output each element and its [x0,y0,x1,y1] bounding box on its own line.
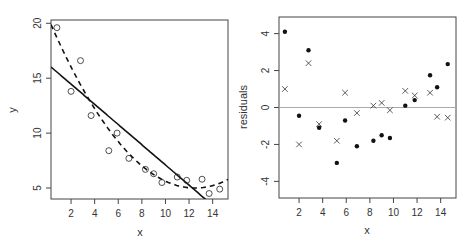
data-point [78,58,84,64]
x-tick-label: 12 [411,207,423,218]
figure: 2468101214 5101520 x y 2468101214 -4-202… [0,0,473,244]
quadratic-residual-cross [334,138,340,144]
left-y-axis-label: y [6,107,18,113]
x-tick-label: 12 [183,208,195,219]
left-observations [54,25,223,197]
x-tick-label: 14 [435,207,447,218]
x-tick-label: 8 [139,208,145,219]
y-tick-label: 20 [32,17,43,29]
linear-residual-dot [413,98,417,102]
right-panel-residual-plot: 2468101214 -4-2024 x residuals [237,17,456,236]
quadratic-residual-cross [342,90,348,96]
linear-residual-dot [306,48,310,52]
linear-residual-dot [388,136,392,140]
linear-residual-dot [317,126,321,130]
y-tick-label: -4 [260,177,271,186]
quadratic-residual-cross [354,110,360,116]
left-x-axis-label: x [137,226,143,238]
y-tick-label: -2 [260,140,271,149]
right-residual-points [282,30,450,166]
y-tick-label: 4 [260,30,271,36]
data-point [54,25,60,31]
right-x-axis: 2468101214 [296,198,446,218]
data-point [126,155,132,161]
quadratic-residual-cross [402,88,408,94]
y-tick-label: 15 [32,72,43,84]
linear-residual-dot [435,85,439,89]
x-tick-label: 10 [388,207,400,218]
quadratic-residual-cross [445,115,451,121]
y-tick-label: 10 [32,127,43,139]
quadratic-residual-cross [296,142,302,148]
x-tick-label: 6 [343,207,349,218]
linear-residual-dot [335,161,339,165]
x-tick-label: 8 [367,207,373,218]
x-tick-label: 4 [92,208,98,219]
left-plot-frame [51,20,228,199]
left-panel-fit-plot: 2468101214 5101520 x y [6,17,228,238]
data-point [206,191,212,197]
linear-fit-line [51,67,228,219]
x-tick-label: 14 [207,208,219,219]
quadratic-residual-cross [387,107,393,113]
data-point [114,130,120,136]
linear-residual-dot [297,114,301,118]
linear-residual-dot [446,62,450,66]
linear-residual-dot [371,139,375,143]
y-tick-label: 0 [260,104,271,110]
data-point [217,186,223,192]
quadratic-residual-cross [412,93,418,99]
data-point [88,113,94,119]
y-tick-label: 5 [32,185,43,191]
linear-residual-dot [403,103,407,107]
x-tick-label: 2 [68,208,74,219]
linear-residual-dot [283,30,287,34]
quadratic-residual-cross [434,114,440,120]
linear-residual-dot [428,73,432,77]
quadratic-residual-cross [427,90,433,96]
linear-residual-dot [379,133,383,137]
right-y-axis: -4-2024 [260,30,279,185]
right-y-axis-label: residuals [237,84,249,129]
data-point [68,88,74,94]
quadratic-residual-cross [282,86,288,92]
left-y-axis: 5101520 [32,17,51,191]
left-fit-lines [51,25,228,219]
x-tick-label: 4 [320,207,326,218]
x-tick-label: 2 [296,207,302,218]
quadratic-fit-line [51,25,228,188]
data-point [159,180,165,186]
data-point [106,148,112,154]
x-tick-label: 10 [160,208,172,219]
linear-residual-dot [355,144,359,148]
data-point [199,176,205,182]
left-x-axis: 2468101214 [68,199,218,219]
x-tick-label: 6 [115,208,121,219]
quadratic-residual-cross [306,60,312,66]
linear-residual-dot [343,118,347,122]
y-tick-label: 2 [260,67,271,73]
quadratic-residual-cross [379,100,385,106]
right-x-axis-label: x [364,224,370,236]
